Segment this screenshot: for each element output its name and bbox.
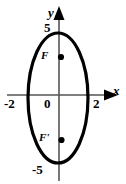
y-tick-label-5: 5	[44, 21, 51, 34]
focus-point-upper	[58, 54, 64, 60]
y-tick-label-neg5: -5	[32, 163, 43, 176]
x-tick-label-neg2: -2	[4, 97, 15, 110]
focus-point-lower	[58, 137, 64, 143]
y-axis-label: y	[48, 6, 54, 19]
y-axis-arrowhead	[54, 6, 65, 20]
x-axis-label: x	[113, 84, 120, 97]
ellipse-curve	[28, 33, 88, 163]
ellipse-graph-figure: y x 5 -5 -2 2 0 F F'	[0, 0, 126, 184]
focus-label-upper: F	[41, 50, 48, 61]
focus-label-lower: F'	[39, 132, 49, 143]
x-tick-label-2: 2	[93, 97, 100, 110]
origin-label: 0	[44, 97, 51, 110]
coordinate-plane-svg	[0, 0, 126, 184]
